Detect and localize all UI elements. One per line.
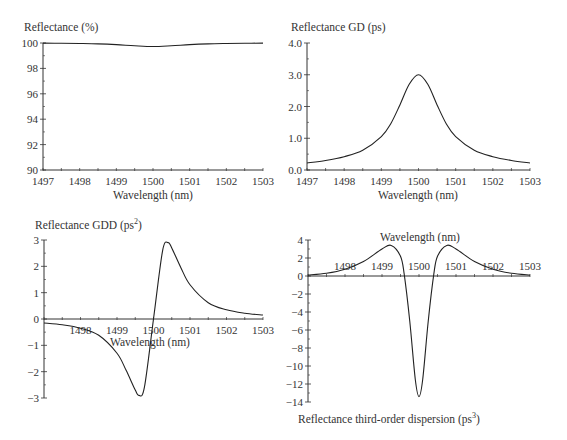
- y-tick-label: −1: [27, 339, 39, 351]
- y-tick-label: −8: [291, 342, 303, 354]
- panel-reflectance-axes: 9092949698100149714981499150015011502150…: [22, 37, 275, 187]
- x-tick-label: 1501: [179, 324, 201, 336]
- y-tick-label: 94: [27, 113, 39, 125]
- x-tick-label: 1500: [408, 175, 431, 187]
- panel-reflectance-title: Reflectance (%): [24, 21, 99, 34]
- y-tick-label: −4: [291, 306, 303, 318]
- y-tick-label: −6: [291, 324, 303, 336]
- x-tick-label: 1500: [143, 324, 166, 336]
- x-tick-label: 1503: [252, 324, 275, 336]
- y-tick-label: −3: [27, 392, 39, 404]
- x-tick-label: 1499: [105, 175, 128, 187]
- panel-gd-title: Reflectance GD (ps): [291, 21, 386, 34]
- panel-gdd-axes: −3−2−10123149814991500150115021503: [27, 234, 274, 404]
- y-tick-label: 92: [27, 139, 38, 151]
- x-tick-label: 1499: [370, 175, 393, 187]
- panel-gdd: Reflectance GDD (ps2) −3−2−1012314981499…: [27, 217, 274, 404]
- y-tick-label: 96: [27, 88, 39, 100]
- panel-tod-axes: −14−12−10−8−6−4−202414981499150015011502…: [286, 234, 542, 408]
- x-tick-label: 1497: [32, 175, 55, 187]
- panel-gd: Reflectance GD (ps) 0.01.02.03.04.014971…: [288, 21, 541, 202]
- panel-tod-title: Reflectance third-order dispersion (ps3): [298, 411, 480, 426]
- y-tick-label: 3: [34, 234, 40, 246]
- x-tick-label: 1501: [445, 175, 467, 187]
- y-tick-label: 2.0: [288, 101, 302, 113]
- x-tick-label: 1497: [296, 175, 319, 187]
- data-line: [43, 43, 263, 46]
- panel-tod: Wavelength (nm) −14−12−10−8−6−4−20241498…: [286, 231, 542, 426]
- x-tick-label: 1498: [69, 175, 92, 187]
- x-tick-label: 1503: [519, 260, 542, 272]
- panel-gd-xlabel: Wavelength (nm): [378, 189, 458, 202]
- x-tick-label: 1498: [70, 324, 93, 336]
- y-tick-label: 4.0: [288, 37, 302, 49]
- y-tick-label: 0: [34, 313, 40, 325]
- panel-gd-axes: 0.01.02.03.04.01497149814991500150115021…: [288, 37, 541, 187]
- x-tick-label: 1499: [371, 260, 394, 272]
- x-tick-label: 1498: [333, 175, 356, 187]
- y-tick-label: −2: [27, 366, 39, 378]
- y-tick-label: 2: [34, 260, 40, 272]
- panel-gdd-title: Reflectance GDD (ps2): [35, 217, 142, 232]
- y-tick-label: −14: [286, 396, 304, 408]
- y-tick-label: 1.0: [288, 132, 302, 144]
- x-tick-label: 1500: [408, 260, 431, 272]
- figure-canvas: Reflectance (%) 909294969810014971498149…: [0, 0, 567, 440]
- y-tick-label: −10: [286, 360, 304, 372]
- x-tick-label: 1503: [519, 175, 542, 187]
- panel-reflectance-xlabel: Wavelength (nm): [113, 189, 193, 202]
- x-tick-label: 1502: [215, 175, 237, 187]
- y-tick-label: −2: [291, 288, 303, 300]
- x-tick-label: 1502: [216, 324, 238, 336]
- x-tick-label: 1499: [106, 324, 129, 336]
- y-tick-label: 3.0: [288, 69, 302, 81]
- x-tick-label: 1502: [482, 175, 504, 187]
- x-tick-label: 1503: [252, 175, 275, 187]
- x-tick-label: 1501: [179, 175, 201, 187]
- y-tick-label: 0: [298, 270, 304, 282]
- y-tick-label: 2: [298, 252, 304, 264]
- y-tick-label: 100: [22, 37, 39, 49]
- panel-reflectance: Reflectance (%) 909294969810014971498149…: [22, 21, 275, 202]
- x-tick-label: 1500: [142, 175, 165, 187]
- panel-gdd-xlabel: Wavelength (nm): [110, 336, 190, 349]
- y-tick-label: 98: [27, 62, 39, 74]
- y-tick-label: −12: [286, 378, 303, 390]
- y-tick-label: 1: [34, 287, 40, 299]
- data-line: [307, 75, 530, 163]
- x-tick-label: 1501: [445, 260, 467, 272]
- y-tick-label: 4: [298, 234, 304, 246]
- panel-tod-xlabel: Wavelength (nm): [380, 231, 460, 244]
